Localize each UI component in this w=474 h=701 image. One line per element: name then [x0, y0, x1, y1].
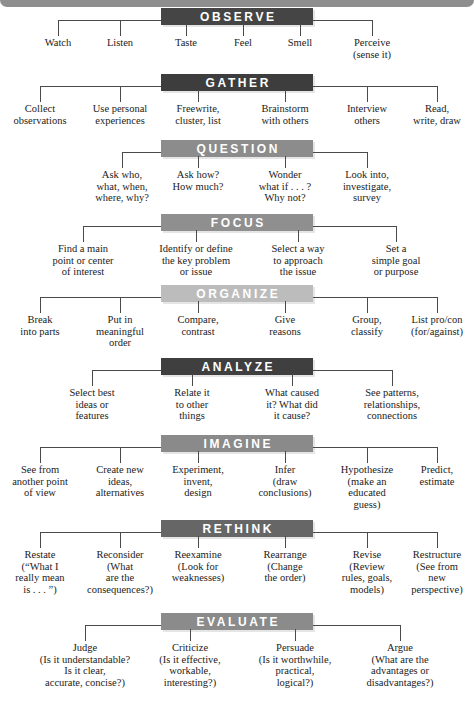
leaf-line: the issue	[254, 266, 342, 278]
leaf-line: relationships,	[346, 399, 438, 411]
leaf-item: Freewrite,cluster, list	[156, 103, 240, 126]
leaf-item: Wonderwhat if . . . ?Why not?	[241, 169, 329, 204]
leaf-line: another point	[0, 476, 80, 488]
connector-horizontal-right	[313, 370, 392, 371]
stage-label: ANALYZE	[199, 361, 275, 373]
stage-header-question[interactable]: QUESTION	[161, 140, 313, 157]
leaf-line: or issue	[144, 266, 248, 278]
leaf-line: conclusions)	[243, 487, 327, 499]
leaf-line: Judge	[17, 642, 153, 654]
leaf-line: workable,	[134, 665, 246, 677]
connector-horizontal-right	[313, 20, 372, 21]
leaf-line: Predict,	[403, 464, 471, 476]
leaf-line: Feel	[213, 37, 273, 49]
leaf-item: Reexamine(Look forweaknesses)	[154, 549, 242, 584]
stage-header-organize[interactable]: ORGANIZE	[161, 285, 313, 302]
leaf-line: Group,	[331, 314, 403, 326]
stage-label: IMAGINE	[201, 438, 273, 450]
leaf-line: others	[327, 115, 407, 127]
leaf-line: Look into,	[323, 169, 411, 181]
leaf-line: What caused	[248, 387, 336, 399]
leaf-line: Ask who,	[78, 169, 166, 181]
connector-horizontal-right	[313, 226, 396, 227]
leaf-line: Criticize	[134, 642, 246, 654]
stage-header-analyze[interactable]: ANALYZE	[161, 358, 313, 375]
connector-tick	[437, 447, 438, 463]
connector-horizontal-right	[313, 447, 437, 448]
connector-tick	[437, 532, 438, 548]
stage-header-imagine[interactable]: IMAGINE	[161, 435, 313, 452]
leaf-line: (“What I	[0, 561, 80, 573]
leaf-line: what if . . . ?	[241, 181, 329, 193]
leaf-line: Restate	[0, 549, 80, 561]
stage-label: GATHER	[203, 77, 271, 89]
leaf-line: Watch	[24, 37, 92, 49]
connector-horizontal-right	[313, 152, 367, 153]
leaf-line: Rearrange	[243, 549, 327, 561]
leaf-line: of view	[0, 487, 80, 499]
leaf-item: Group,classify	[331, 314, 403, 337]
stage-header-rethink[interactable]: RETHINK	[161, 520, 313, 537]
leaf-line: Freewrite,	[156, 103, 240, 115]
leaf-line: it? What did	[248, 399, 336, 411]
thinking-moves-diagram: OBSERVEWatchListenTasteFeelSmellPerceive…	[0, 0, 474, 701]
connector-tick	[300, 24, 301, 36]
leaf-line: See patterns,	[346, 387, 438, 399]
connector-tick	[292, 374, 293, 386]
leaf-line: perspective)	[393, 584, 474, 596]
leaf-line: Infer	[243, 464, 327, 476]
stage-header-observe[interactable]: OBSERVE	[161, 8, 313, 25]
leaf-line: List pro/con	[395, 314, 474, 326]
leaf-line: Create new	[78, 464, 162, 476]
leaf-line: Identify or define	[144, 243, 248, 255]
leaf-line: connections	[346, 410, 438, 422]
connector-horizontal-right	[313, 297, 437, 298]
leaf-line: How much?	[158, 181, 238, 193]
connector-tick	[198, 301, 199, 313]
leaf-item: Perceive(sense it)	[332, 37, 412, 60]
leaf-item: Rearrange(Changethe order)	[243, 549, 327, 584]
stage-label: OBSERVE	[197, 11, 276, 23]
leaf-item: Ask who,what, when,where, why?	[78, 169, 166, 204]
stage-header-focus[interactable]: FOCUS	[161, 214, 313, 231]
leaf-item: Feel	[213, 37, 273, 49]
leaf-item: Brainstormwith others	[243, 103, 327, 126]
leaf-line: Set a	[356, 243, 436, 255]
stage-header-evaluate[interactable]: EVALUATE	[161, 613, 313, 630]
connector-tick	[298, 230, 299, 242]
connector-tick	[367, 152, 368, 168]
connector-horizontal-left	[92, 370, 161, 371]
stage-label: QUESTION	[194, 143, 280, 155]
leaf-line: Taste	[152, 37, 220, 49]
stage-header-gather[interactable]: GATHER	[161, 74, 313, 91]
leaf-item: Read,write, draw	[399, 103, 474, 126]
leaf-line: Perceive	[332, 37, 412, 49]
leaf-line: Select a way	[254, 243, 342, 255]
leaf-line: Compare,	[158, 314, 238, 326]
leaf-line: investigate,	[323, 181, 411, 193]
connector-tick	[58, 20, 59, 36]
leaf-line: (What are the	[344, 654, 456, 666]
leaf-item: Interviewothers	[327, 103, 407, 126]
connector-tick	[120, 297, 121, 313]
leaf-item: Set asimple goalor purpose	[356, 243, 436, 278]
leaf-line: Is it clear,	[17, 665, 153, 677]
connector-tick	[367, 86, 368, 102]
connector-tick	[186, 24, 187, 36]
leaf-line: write, draw	[399, 115, 474, 127]
leaf-item: Put inmeaningfulorder	[78, 314, 162, 349]
connector-tick	[285, 451, 286, 463]
leaf-line: Reexamine	[154, 549, 242, 561]
connector-horizontal-right	[313, 532, 437, 533]
connector-tick	[198, 156, 199, 168]
leaf-line: where, why?	[78, 192, 166, 204]
leaf-item: Experiment,invent,design	[158, 464, 238, 499]
leaf-item: Identify or definethe key problemor issu…	[144, 243, 248, 278]
leaf-item: Hypothesize(make aneducatedguess)	[327, 464, 407, 510]
leaf-line: interesting?)	[134, 677, 246, 689]
connector-tick	[92, 370, 93, 386]
connector-tick	[190, 629, 191, 641]
connector-horizontal-right	[313, 86, 437, 87]
connector-tick	[198, 536, 199, 548]
leaf-line: or purpose	[356, 266, 436, 278]
